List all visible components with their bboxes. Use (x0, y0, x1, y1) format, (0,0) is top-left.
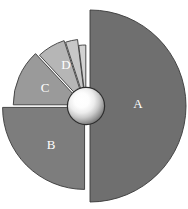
pie-chart: ABCD (0, 0, 188, 209)
pie-slice-label-d: D (61, 57, 70, 72)
pie-slice-label-c: C (41, 80, 50, 95)
center-sphere-ball (68, 88, 104, 124)
center-sphere (67, 87, 105, 125)
pie-slice-label-b: B (47, 137, 56, 152)
pie-chart-canvas: ABCD (0, 0, 188, 209)
pie-slice-label-a: A (133, 96, 143, 111)
